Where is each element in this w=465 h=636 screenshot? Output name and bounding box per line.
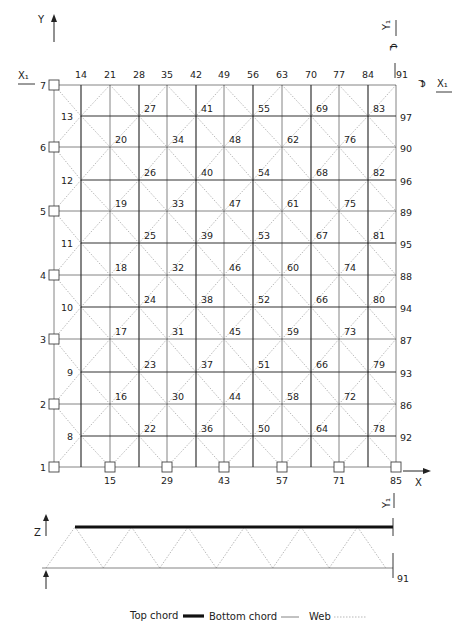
elevation-view: 91 Z (34, 514, 409, 589)
support-node (219, 462, 229, 472)
support-node (162, 462, 172, 472)
node-label: 96 (400, 176, 412, 187)
base-arrow (43, 570, 49, 589)
node-label: 70 (305, 69, 317, 80)
support-node (49, 462, 59, 472)
node-label: 89 (400, 207, 412, 218)
node-label: 35 (161, 69, 173, 80)
node-label: 37 (201, 359, 213, 370)
node-label: 71 (333, 475, 345, 486)
node-label: 62 (287, 134, 299, 145)
legend-bottom-chord-label: Bottom chord (209, 611, 277, 622)
x1-label-left: X₁ (18, 70, 29, 81)
node-label: 20 (115, 134, 127, 145)
node-label: 56 (247, 69, 259, 80)
node-label: 54 (258, 167, 270, 178)
node-label: 60 (287, 262, 299, 273)
node-label: 95 (400, 239, 412, 250)
centerline-symbol-top: ℄ (388, 43, 399, 51)
support-node (49, 142, 59, 152)
node-label: 85 (390, 475, 402, 486)
y1-section-marker-bottom: Y₁ (381, 493, 394, 509)
node-label: 30 (172, 391, 184, 402)
node-label: 53 (258, 230, 270, 241)
node-label: 43 (218, 475, 230, 486)
node-label: 69 (316, 103, 328, 114)
x1-label-right: X₁ (437, 78, 448, 89)
x1-section-marker-right: X₁ ℄ (418, 78, 452, 92)
node-label: 49 (218, 69, 230, 80)
node-label: 12 (61, 175, 73, 186)
node-label: 21 (104, 69, 116, 80)
node-label: 4 (40, 270, 46, 281)
node-label: 74 (344, 262, 356, 273)
y-axis-arrow: Y (37, 14, 57, 42)
x-axis-label: X (415, 477, 422, 488)
support-node (391, 462, 401, 472)
elevation-web-members (46, 527, 386, 568)
node-label: 25 (144, 230, 156, 241)
z-axis-arrow: Z (34, 514, 49, 538)
node-label: 3 (40, 334, 46, 345)
node-label: 19 (115, 198, 127, 209)
node-label: 64 (316, 423, 328, 434)
node-label: 9 (67, 367, 73, 378)
node-label: 91 (396, 69, 408, 80)
node-label: 48 (229, 134, 241, 145)
node-label: 80 (373, 294, 385, 305)
node-label: 18 (115, 262, 127, 273)
node-label: 52 (258, 294, 270, 305)
node-label: 5 (40, 206, 46, 217)
node-label: 41 (201, 103, 213, 114)
node-label: 1 (40, 462, 46, 473)
node-label: 36 (201, 423, 213, 434)
node-label: 58 (287, 391, 299, 402)
support-node (277, 462, 287, 472)
node-label: 51 (258, 359, 270, 370)
space-truss-diagram: 7654321131211109814212835424956637077849… (0, 0, 465, 636)
node-label: 92 (400, 432, 412, 443)
legend-top-chord-label: Top chord (129, 610, 178, 621)
node-label: 17 (115, 326, 127, 337)
node-label: 7 (40, 80, 46, 91)
support-node (49, 80, 59, 90)
plan-view: 7654321131211109814212835424956637077849… (18, 14, 452, 509)
elevation-end-node-label: 91 (397, 573, 409, 584)
node-label: 40 (201, 167, 213, 178)
node-label: 31 (172, 326, 184, 337)
node-label: 86 (400, 400, 412, 411)
node-label: 90 (400, 143, 412, 154)
support-node (105, 462, 115, 472)
node-label: 34 (172, 134, 184, 145)
node-label: 83 (373, 103, 385, 114)
x-axis-arrow: X (403, 468, 431, 488)
node-label: 75 (344, 198, 356, 209)
support-node (49, 399, 59, 409)
node-label: 87 (400, 335, 412, 346)
node-label: 29 (161, 475, 173, 486)
node-label: 59 (287, 326, 299, 337)
legend-web-label: Web (309, 611, 331, 622)
support-node (334, 462, 344, 472)
node-label: 6 (40, 142, 46, 153)
node-label: 61 (287, 198, 299, 209)
node-label: 57 (276, 475, 288, 486)
node-label: 24 (144, 294, 156, 305)
node-label: 84 (362, 69, 374, 80)
support-node (49, 206, 59, 216)
y-axis-label: Y (37, 14, 45, 25)
node-label: 97 (400, 112, 412, 123)
node-label: 76 (344, 134, 356, 145)
node-label: 88 (400, 271, 412, 282)
centerline-symbol-right: ℄ (418, 78, 426, 89)
node-label: 28 (133, 69, 145, 80)
node-label: 79 (373, 359, 385, 370)
y1-label-top: Y₁ (381, 20, 392, 31)
node-label: 66 (316, 359, 328, 370)
node-label: 10 (61, 302, 73, 313)
node-label: 77 (333, 69, 345, 80)
x1-section-marker-left: X₁ (18, 70, 35, 84)
node-label: 72 (344, 391, 356, 402)
node-label: 15 (104, 475, 116, 486)
node-label: 50 (258, 423, 270, 434)
